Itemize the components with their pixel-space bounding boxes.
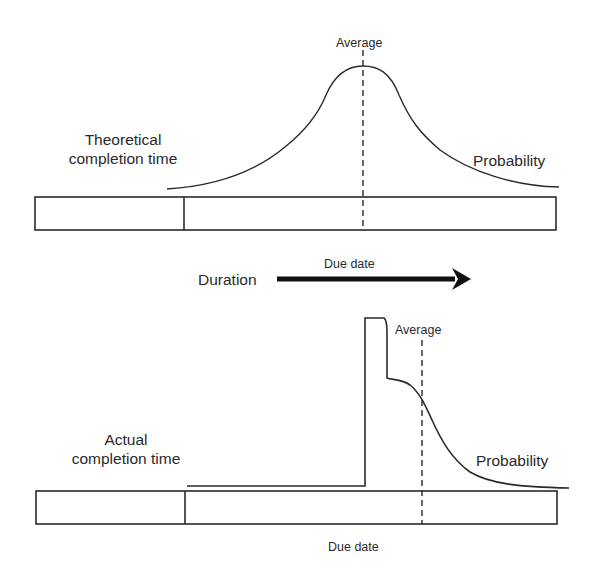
label-line-1: Actual: [62, 430, 190, 449]
theoretical-completion-time-label: Theoretical completion time: [58, 130, 188, 168]
diagram-canvas: [0, 0, 591, 578]
bottom-panel-graphics: [36, 318, 569, 524]
top-timeline-bar: [35, 197, 556, 230]
top-average-label: Average: [336, 36, 382, 51]
arrow-due-date-label: Due date: [324, 257, 375, 272]
duration-label: Duration: [198, 270, 257, 289]
bottom-timeline-bar: [36, 491, 557, 524]
actual-completion-time-label: Actual completion time: [62, 430, 190, 468]
label-line-2: completion time: [62, 449, 190, 468]
bottom-probability-label: Probability: [476, 451, 548, 470]
label-line-1: Theoretical: [58, 130, 188, 149]
bottom-due-date-label: Due date: [328, 540, 379, 555]
bottom-average-label: Average: [395, 323, 441, 338]
label-line-2: completion time: [58, 149, 188, 168]
top-probability-label: Probability: [473, 151, 545, 170]
